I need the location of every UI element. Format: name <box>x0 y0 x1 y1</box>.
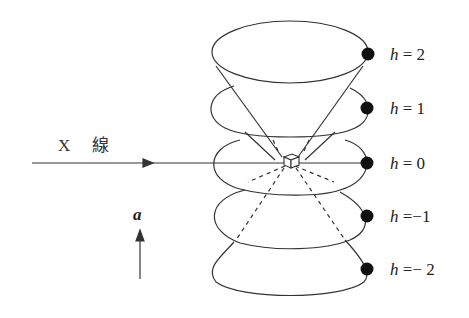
axis-a-label: a <box>133 205 142 225</box>
axis-a-arrowhead <box>136 230 144 241</box>
dash-line-3 <box>236 168 284 240</box>
order-dot-h1 <box>361 102 374 115</box>
order-label-h0: h = 0 <box>390 155 425 172</box>
order-label-hm2: h =− 2 <box>390 261 435 278</box>
order-label-h1: h = 1 <box>390 100 425 117</box>
order-dot-h2 <box>362 48 375 61</box>
order-dot-hm1 <box>361 210 374 223</box>
cone-ellipse-hm1 <box>214 190 365 249</box>
cone-ellipse-h2 <box>212 21 368 83</box>
xray-beam-arrowhead <box>143 159 153 167</box>
xray-label-kanji: 線 <box>92 136 109 155</box>
cone-line-h2-left <box>216 66 282 157</box>
xray-label: X線 <box>58 131 109 156</box>
order-label-h2: h = 2 <box>390 46 425 63</box>
order-label-hm1: h =−1 <box>390 208 430 225</box>
dash-line-2 <box>295 166 334 182</box>
cone-ellipse-h1 <box>211 86 368 137</box>
order-dot-hm2 <box>361 263 374 276</box>
crystal-cube-icon <box>284 154 299 168</box>
order-dot-h0 <box>361 157 374 170</box>
dash-line-4 <box>296 168 345 240</box>
xray-label-x: X <box>58 136 70 155</box>
dash-line-1 <box>248 166 285 182</box>
